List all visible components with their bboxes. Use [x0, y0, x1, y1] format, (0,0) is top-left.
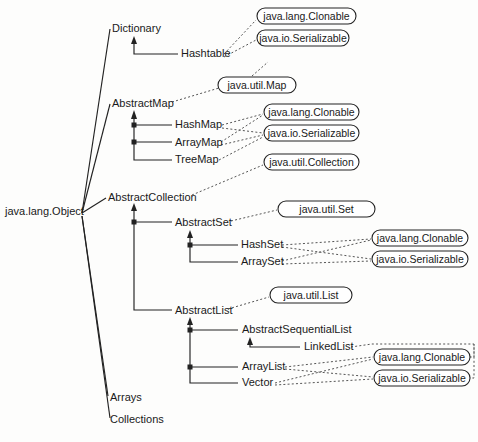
arrow-head-dictionary — [131, 36, 137, 44]
interface-label: java.util.List — [283, 289, 339, 301]
junction-dot-abstractset — [132, 220, 137, 225]
implements-edge-abstractcollection-collection — [192, 165, 263, 195]
class-node-collections[interactable]: Collections — [110, 413, 164, 425]
arrow-head-abstractmap — [131, 110, 137, 119]
junction-dot-hashmap — [132, 123, 137, 128]
arrow-head-abstractlist — [187, 317, 193, 325]
interface-node-clonable-4[interactable]: java.lang.Clonable — [374, 349, 470, 365]
class-node-hashtable[interactable]: Hashtable — [181, 47, 231, 59]
arrow-head-abstractset — [187, 230, 193, 238]
interface-label: java.io.Serializable — [267, 127, 356, 139]
class-node-hashmap[interactable]: HashMap — [175, 118, 222, 130]
implements-edge-hashset-serializable — [282, 247, 371, 259]
class-node-arraylist[interactable]: ArrayList — [242, 360, 285, 372]
interface-label: java.io.Serializable — [375, 253, 464, 265]
interface-node-serializable-1[interactable]: java.io.Serializable — [257, 30, 349, 46]
inheritance-edge-absseqlist-linkedlist — [250, 343, 300, 347]
class-node-arrays[interactable]: Arrays — [110, 391, 142, 403]
interface-node-list[interactable]: java.util.List — [270, 287, 352, 303]
junction-dot-arraylist — [188, 365, 193, 370]
interface-node-collection[interactable]: java.util.Collection — [264, 154, 359, 170]
class-hierarchy-diagram: java.lang.Clonable java.io.Serializable … — [0, 0, 478, 442]
class-node-abstractmap[interactable]: AbstractMap — [112, 97, 174, 109]
class-node-dictionary[interactable]: Dictionary — [112, 22, 161, 34]
interface-label: java.io.Serializable — [377, 372, 466, 384]
implements-edge-vector-serializable — [275, 379, 373, 385]
inheritance-edge-abstractlist-bus — [190, 322, 238, 383]
implements-edge-arrayset-clonable — [282, 240, 371, 261]
class-node-arrayset[interactable]: ArraySet — [241, 255, 284, 267]
inheritance-edge-abstractset-bus — [190, 235, 238, 262]
junction-dot-hashset — [188, 243, 193, 248]
class-node-hashset[interactable]: HashSet — [241, 238, 283, 250]
implements-edge-treemap-clonable — [219, 137, 263, 160]
interface-label: java.io.Serializable — [258, 32, 347, 44]
interface-label: java.util.Map — [227, 79, 287, 91]
interface-node-clonable-3[interactable]: java.lang.Clonable — [372, 230, 468, 246]
class-node-abstractlist[interactable]: AbstractList — [175, 304, 232, 316]
class-node-abstractset[interactable]: AbstractSet — [175, 216, 232, 228]
implements-edge-arrayset-serializable — [282, 261, 371, 264]
interface-label: java.lang.Clonable — [267, 106, 355, 118]
interface-node-clonable-2[interactable]: java.lang.Clonable — [264, 104, 359, 120]
inheritance-edge-abstractcollection-bus — [134, 208, 172, 310]
implements-edge-arraylist-clonable — [285, 357, 373, 367]
class-node-treemap[interactable]: TreeMap — [175, 153, 219, 165]
inheritance-edge-dictionary-hashtable — [134, 41, 178, 54]
interface-node-serializable-4[interactable]: java.io.Serializable — [374, 370, 470, 386]
interface-label: java.lang.Clonable — [262, 10, 350, 22]
class-node-java-lang-object[interactable]: java.lang.Object — [4, 205, 84, 217]
interface-label: java.util.Set — [298, 203, 353, 215]
arrow-head-abstractcollection — [131, 203, 137, 211]
diagram-canvas: java.lang.Clonable java.io.Serializable … — [0, 0, 478, 442]
junction-dot-absseqlist — [188, 328, 193, 333]
interface-label: java.lang.Clonable — [376, 232, 464, 244]
interface-node-set[interactable]: java.util.Set — [278, 201, 375, 217]
inheritance-edge-object-collections — [82, 216, 110, 418]
class-node-vector[interactable]: Vector — [242, 376, 274, 388]
class-node-abstractsequentiallist[interactable]: AbstractSequentialList — [242, 323, 351, 335]
class-node-linkedlist[interactable]: LinkedList — [304, 340, 354, 352]
arrow-head-absseqlist — [247, 337, 253, 345]
inheritance-edge-abstractmap-bus — [134, 116, 172, 160]
class-label-group: java.lang.Object Dictionary Hashtable Ab… — [4, 22, 354, 425]
implements-edge-abstractmap-map — [172, 88, 219, 102]
class-node-arraymap[interactable]: ArrayMap — [175, 136, 223, 148]
implements-edge-map-upper — [252, 62, 268, 76]
implements-edge-hashset-clonable — [282, 239, 371, 245]
interface-node-serializable-2[interactable]: java.io.Serializable — [264, 125, 359, 141]
interface-label: java.util.Collection — [268, 156, 354, 168]
interface-node-clonable-1[interactable]: java.lang.Clonable — [257, 8, 356, 24]
class-node-abstractcollection[interactable]: AbstractCollection — [108, 191, 197, 203]
implements-edge-linkedlist-serializable — [470, 344, 474, 378]
implements-edge-abstractlist-list — [228, 297, 269, 309]
implements-edge-abstractset-set — [231, 210, 277, 221]
interface-label: java.lang.Clonable — [378, 351, 466, 363]
interface-node-serializable-3[interactable]: java.io.Serializable — [372, 251, 468, 267]
junction-dot-arraymap — [132, 140, 137, 145]
interface-node-map[interactable]: java.util.Map — [218, 77, 296, 93]
